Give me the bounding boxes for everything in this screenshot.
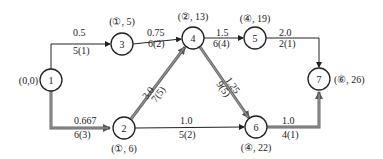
edge-label-3-4-top: 0.75: [147, 27, 165, 38]
node-2-label: 2: [122, 123, 127, 134]
node-7: 7: [308, 68, 330, 90]
network-diagram: 0.5 5(1) 0.75 6(2) 1.5 6(4) 2.0 2(1) 0.6…: [0, 0, 383, 159]
edge-label-1-2-bottom: 6(3): [74, 129, 91, 141]
edge-label-1-2-top: 0.667: [74, 115, 97, 126]
node-5: 5: [244, 27, 266, 49]
edge-label-1-3-top: 0.5: [73, 27, 86, 38]
node-4-tag: (②, 13): [178, 11, 209, 23]
node-7-tag: (⑥, 26): [334, 74, 365, 86]
node-3: 3: [111, 33, 133, 55]
edge-label-4-5-top: 1.5: [216, 27, 229, 38]
diagram-svg: 0.5 5(1) 0.75 6(2) 1.5 6(4) 2.0 2(1) 0.6…: [0, 0, 383, 159]
node-1: 1: [40, 69, 62, 91]
edge-label-5-7-top: 2.0: [279, 27, 292, 38]
node-3-tag: (①, 5): [109, 16, 135, 28]
node-4: 4: [182, 27, 204, 49]
node-4-label: 4: [191, 33, 196, 44]
node-6: 6: [245, 116, 267, 138]
node-1-tag: (0,0): [19, 75, 38, 87]
edge-label-1-3-bottom: 5(1): [73, 45, 90, 57]
edge-label-2-4-bottom: 7(5): [149, 84, 169, 105]
node-2-tag: (①, 6): [111, 143, 137, 155]
node-1-label: 1: [49, 75, 54, 86]
edge-label-3-4-bottom: 6(2): [148, 38, 165, 50]
edge-2-6: [135, 127, 244, 128]
edge-label-6-7-top: 1.0: [282, 115, 295, 126]
node-2: 2: [113, 117, 135, 139]
node-6-label: 6: [254, 122, 259, 133]
edge-label-4-5-bottom: 6(4): [213, 38, 230, 50]
edge-label-5-7-bottom: 2(1): [279, 38, 296, 50]
edge-label-6-7-bottom: 4(1): [282, 129, 299, 141]
node-3-label: 3: [120, 39, 125, 50]
node-6-tag: (④, 22): [241, 142, 272, 154]
node-5-tag: (④, 19): [240, 13, 271, 25]
edge-label-2-6-top: 1.0: [180, 115, 193, 126]
node-5-label: 5: [253, 33, 258, 44]
node-7-label: 7: [317, 74, 322, 85]
edge-label-2-6-bottom: 5(2): [179, 129, 196, 141]
